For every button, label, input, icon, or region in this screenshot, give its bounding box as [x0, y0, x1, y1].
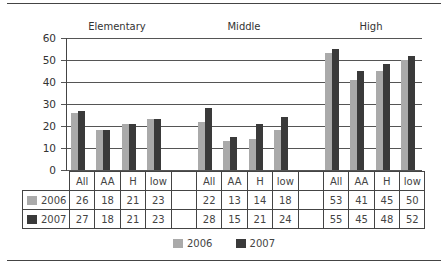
bar-2007 — [205, 108, 212, 170]
data-table: All AA H low All AA H low All AA H low 2… — [22, 171, 425, 229]
bar-2006 — [71, 113, 78, 170]
swatch-2006-icon — [173, 239, 183, 248]
bar-2007 — [281, 117, 288, 170]
bar-2006 — [249, 139, 256, 170]
bar-2007 — [78, 111, 85, 170]
bar-2007 — [129, 124, 136, 170]
bar-2006 — [401, 60, 408, 170]
cat-cell: AA — [95, 172, 120, 191]
gridline — [61, 82, 422, 83]
bar-2006 — [198, 122, 205, 170]
y-axis-line — [66, 38, 67, 171]
bar-2007 — [103, 130, 110, 170]
row-label-2006: 2006 — [23, 191, 70, 210]
group-title-elementary: Elementary — [66, 21, 168, 32]
group-title-high: High — [320, 21, 422, 32]
gridline — [61, 38, 422, 39]
gap-cell — [298, 210, 323, 229]
bar-2006 — [122, 124, 129, 170]
cat-cell: H — [374, 172, 399, 191]
bottom-rule — [7, 260, 441, 261]
table-header-row: All AA H low All AA H low All AA H low — [23, 172, 425, 191]
gridline — [61, 60, 422, 61]
cat-cell: low — [273, 172, 298, 191]
cat-cell: AA — [222, 172, 247, 191]
group-title-middle: Middle — [193, 21, 295, 32]
bar-2007 — [383, 64, 390, 170]
gap-cell — [171, 191, 196, 210]
row-label-2007: 2007 — [23, 210, 70, 229]
gridline — [61, 148, 422, 149]
bar-2006 — [350, 80, 357, 170]
cat-cell: H — [120, 172, 145, 191]
table-row-2007: 2007 27 18 21 23 28 15 21 24 55 45 48 52 — [23, 210, 425, 229]
gridline — [61, 104, 422, 105]
legend: 2006 2007 — [0, 238, 448, 249]
swatch-2007-icon — [236, 239, 246, 248]
swatch-2006-icon — [27, 196, 37, 205]
bar-2007 — [357, 71, 364, 170]
bar-2006 — [147, 119, 154, 170]
y-tick-60: 60 — [30, 32, 56, 44]
y-tick-20: 20 — [30, 120, 56, 132]
cat-cell: All — [70, 172, 95, 191]
cat-cell: All — [196, 172, 221, 191]
cat-cell: All — [323, 172, 348, 191]
bar-2007 — [230, 137, 237, 170]
y-tick-10: 10 — [30, 142, 56, 154]
bar-2007 — [332, 49, 339, 170]
bar-2006 — [274, 130, 281, 170]
cat-cell: H — [247, 172, 272, 191]
table-row-2006: 2006 26 18 21 23 22 13 14 18 53 41 45 50 — [23, 191, 425, 210]
top-rule — [7, 3, 441, 4]
gap-cell — [298, 191, 323, 210]
bar-2007 — [408, 56, 415, 170]
cat-cell: low — [400, 172, 425, 191]
cat-cell: AA — [349, 172, 374, 191]
gridline — [61, 126, 422, 127]
cat-cell: low — [146, 172, 171, 191]
bar-2006 — [96, 130, 103, 170]
y-tick-30: 30 — [30, 98, 56, 110]
swatch-2007-icon — [27, 215, 37, 224]
legend-item-2006: 2006 — [173, 238, 212, 249]
bar-2006 — [325, 53, 332, 170]
bar-2006 — [376, 71, 383, 170]
legend-item-2007: 2007 — [236, 238, 275, 249]
y-tick-40: 40 — [30, 76, 56, 88]
bar-2006 — [223, 141, 230, 170]
gap-cell — [171, 172, 196, 191]
gap-cell — [298, 172, 323, 191]
bar-2007 — [256, 124, 263, 170]
bar-2007 — [154, 119, 161, 170]
y-tick-50: 50 — [30, 54, 56, 66]
gap-cell — [171, 210, 196, 229]
